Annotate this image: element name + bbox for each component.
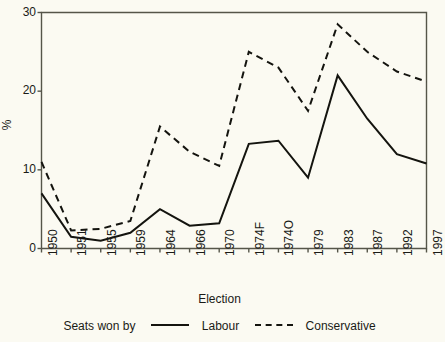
x-tick-label: 1966 [195, 229, 207, 256]
series-line-labour [42, 75, 427, 240]
legend-label-conservative: Conservative [306, 319, 376, 333]
x-tick-label: 1950 [47, 229, 59, 256]
x-axis-title: Election [0, 292, 439, 306]
x-tick-label: 1997 [432, 229, 444, 256]
legend-prefix: Seats won by [63, 319, 135, 333]
chart-legend: Seats won by Labour Conservative [0, 318, 439, 333]
x-tick-label: 1983 [343, 229, 355, 256]
x-tick-label: 1951 [76, 229, 88, 256]
x-tick-label: 1959 [135, 229, 147, 256]
legend-swatch-labour-icon [151, 324, 189, 326]
legend-swatch-conservative-icon [255, 324, 293, 326]
x-tick-label: 1955 [106, 229, 118, 256]
x-tick-label: 1970 [224, 229, 236, 256]
series-line-conservative [42, 24, 427, 230]
x-tick-label: 1987 [372, 229, 384, 256]
x-tick-label: 1992 [402, 229, 414, 256]
x-tick-label: 1979 [313, 229, 325, 256]
plot-frame [42, 13, 427, 249]
x-tick-label: 1964 [165, 229, 177, 256]
legend-label-labour: Labour [202, 319, 239, 333]
x-tick-label: 1974O [283, 219, 295, 255]
x-tick-label: 1974F [254, 221, 266, 255]
